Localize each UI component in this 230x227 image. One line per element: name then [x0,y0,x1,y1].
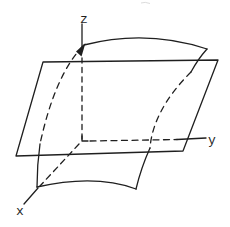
y-axis-hidden-line [90,140,177,142]
arrowhead-icon [76,43,86,57]
surface-plane-diagram: z y x [0,0,230,227]
y-axis-label: y [208,133,216,148]
surface-left-edge-hidden [40,46,83,144]
origin-junction [82,136,88,141]
y-axis-line [177,138,206,140]
surface-bottom-edge [37,181,136,189]
surface-right-edge-lower [136,148,150,189]
surface-right-edge-hidden [150,72,191,148]
x-axis-label: x [16,204,24,219]
x-axis-hidden-line [40,144,79,186]
plane-outline [16,60,218,156]
z-axis-label: z [80,12,88,27]
scan-artifact [141,2,150,3]
diagram-strokes [16,24,218,204]
surface-top-edge [84,38,207,49]
surface-left-edge-lower [37,144,40,187]
x-axis-line [24,188,38,204]
figure-canvas: z y x [0,0,230,227]
